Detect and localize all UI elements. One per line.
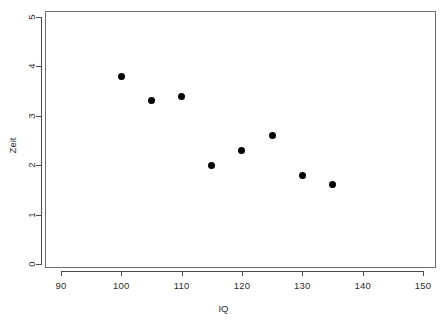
x-tick-mark xyxy=(423,271,424,276)
x-tick-mark xyxy=(302,271,303,276)
x-axis-title: IQ xyxy=(0,303,447,314)
y-tick-label: 0 xyxy=(26,257,37,271)
y-tick-mark xyxy=(36,264,41,265)
y-tick-label: 4 xyxy=(26,59,37,73)
x-tick-label: 150 xyxy=(415,280,431,291)
y-tick-mark xyxy=(36,17,41,18)
y-tick-mark xyxy=(36,66,41,67)
x-tick-label: 90 xyxy=(56,280,67,291)
y-axis-line xyxy=(41,17,42,265)
y-tick-mark xyxy=(36,116,41,117)
x-tick-label: 130 xyxy=(294,280,310,291)
y-tick-label: 2 xyxy=(26,158,37,172)
x-tick-mark xyxy=(363,271,364,276)
x-tick-label: 120 xyxy=(234,280,250,291)
x-tick-mark xyxy=(121,271,122,276)
y-tick-label: 5 xyxy=(26,10,37,24)
y-tick-mark xyxy=(36,215,41,216)
plot-frame xyxy=(45,11,436,268)
x-tick-label: 110 xyxy=(174,280,190,291)
y-tick-mark xyxy=(36,165,41,166)
x-tick-mark xyxy=(182,271,183,276)
x-tick-mark xyxy=(242,271,243,276)
x-tick-mark xyxy=(61,271,62,276)
y-tick-label: 1 xyxy=(26,208,37,222)
x-tick-label: 140 xyxy=(354,280,370,291)
x-tick-label: 100 xyxy=(113,280,129,291)
y-tick-label: 3 xyxy=(26,109,37,123)
y-axis-title: Zeit xyxy=(7,126,18,166)
scatter-plot-screenshot: 90100110120130140150 012345 IQ Zeit xyxy=(0,0,447,328)
